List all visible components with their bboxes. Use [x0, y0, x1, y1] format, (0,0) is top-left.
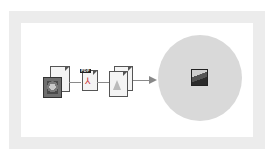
document-graphic-icon [113, 80, 121, 90]
connector-line [97, 82, 109, 83]
photo-icon [43, 77, 62, 98]
acrobat-icon: ⅄ [85, 77, 91, 86]
pdf-label: PDF [80, 69, 91, 73]
connector-line [69, 82, 81, 83]
arrow-icon [149, 76, 157, 84]
connector-line [133, 80, 150, 81]
image-file-icon [191, 69, 208, 86]
